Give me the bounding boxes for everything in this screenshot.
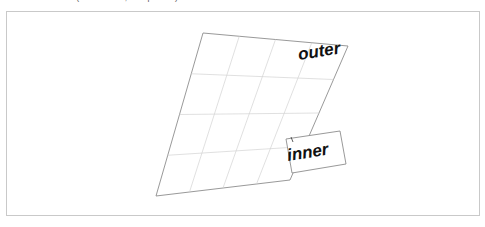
screenshot-root: Schwenken (Sichtbarkeit, Perspektive) ou… — [0, 0, 485, 227]
figure-frame — [6, 11, 480, 216]
caption-text-main: Schwenken — [26, 0, 74, 2]
caption-text: Schwenken (Sichtbarkeit, Perspektive) — [26, 0, 178, 2]
caption-strip: Schwenken (Sichtbarkeit, Perspektive) — [0, 0, 485, 9]
caption-text-rest: (Sichtbarkeit, Perspektive) — [74, 0, 178, 2]
